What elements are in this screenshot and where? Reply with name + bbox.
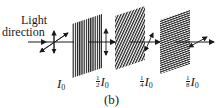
intensity-label-i0: I0: [57, 77, 65, 94]
figure-caption: (b): [104, 93, 119, 106]
intensity-label-eighth: 18I0: [186, 75, 199, 92]
fraction: 12: [96, 75, 100, 88]
intensity-label-half: 12I0: [96, 75, 109, 92]
intensity-label-quarter: 14I0: [140, 75, 153, 92]
intensity-subscript: 0: [61, 83, 65, 92]
light-label-line2: direction: [2, 25, 45, 39]
fraction-denominator: 8: [186, 81, 190, 88]
fraction: 18: [186, 75, 190, 88]
fraction: 14: [140, 75, 144, 88]
intensity-subscript: 0: [195, 81, 199, 90]
polarizer-2-diagonal: [115, 6, 145, 70]
polarizer-1-vertical: [72, 14, 102, 78]
intensity-subscript: 0: [105, 81, 109, 90]
polarizer-3-horizontal: [160, 10, 190, 74]
direction-label: direction: [2, 26, 45, 38]
intensity-subscript: 0: [149, 81, 153, 90]
fraction-denominator: 2: [96, 81, 100, 88]
fraction-denominator: 4: [140, 81, 144, 88]
